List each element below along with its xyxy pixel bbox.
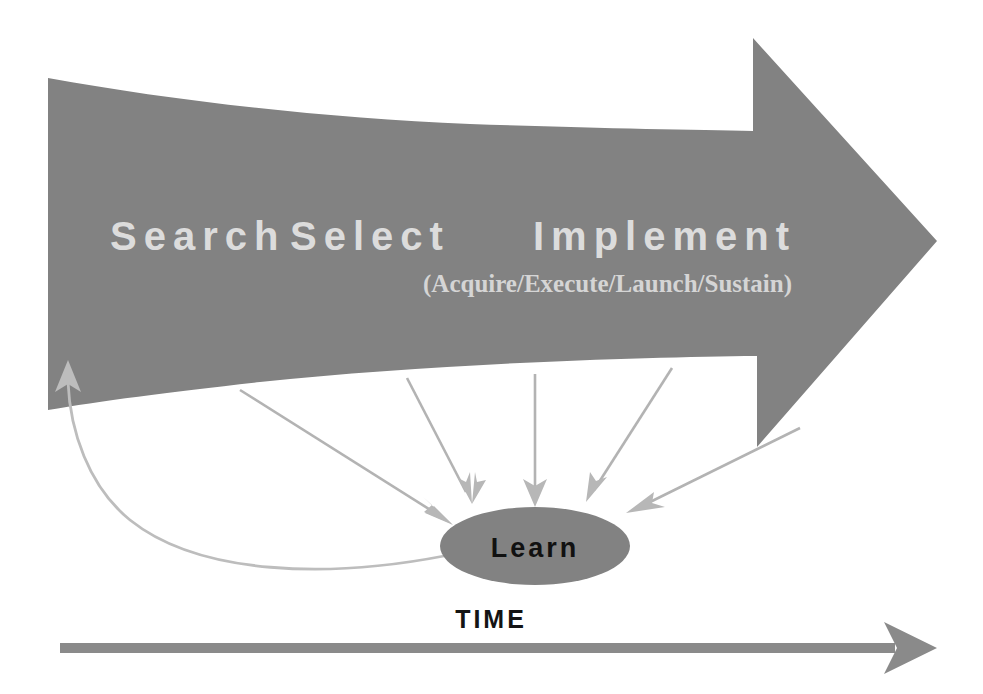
learn-node-group: Learn xyxy=(440,507,630,585)
innovation-process-diagram: Innovation Process: Search / Select / Im… xyxy=(0,0,983,694)
time-axis-shaft xyxy=(60,643,895,653)
feedback-loop-path xyxy=(68,382,444,569)
learn-arrow-5 xyxy=(626,428,800,513)
learn-arrow-3 xyxy=(523,374,547,507)
phase-label-select: Select xyxy=(290,214,450,258)
learn-arrow-4 xyxy=(586,368,672,502)
time-axis-group: TIME xyxy=(60,605,937,674)
implement-sublabel: (Acquire/Execute/Launch/Sustain) xyxy=(423,270,792,298)
diagram-canvas: Innovation Process: Search / Select / Im… xyxy=(0,0,983,694)
learn-arrow-1 xyxy=(240,390,453,525)
learning-arrows-group xyxy=(240,368,800,525)
time-axis-label: TIME xyxy=(455,605,527,633)
phase-label-search: Search xyxy=(110,214,285,258)
learn-arrow-2 xyxy=(407,378,486,504)
phase-label-implement: Implement xyxy=(533,214,796,258)
learn-node-label: Learn xyxy=(491,533,580,563)
